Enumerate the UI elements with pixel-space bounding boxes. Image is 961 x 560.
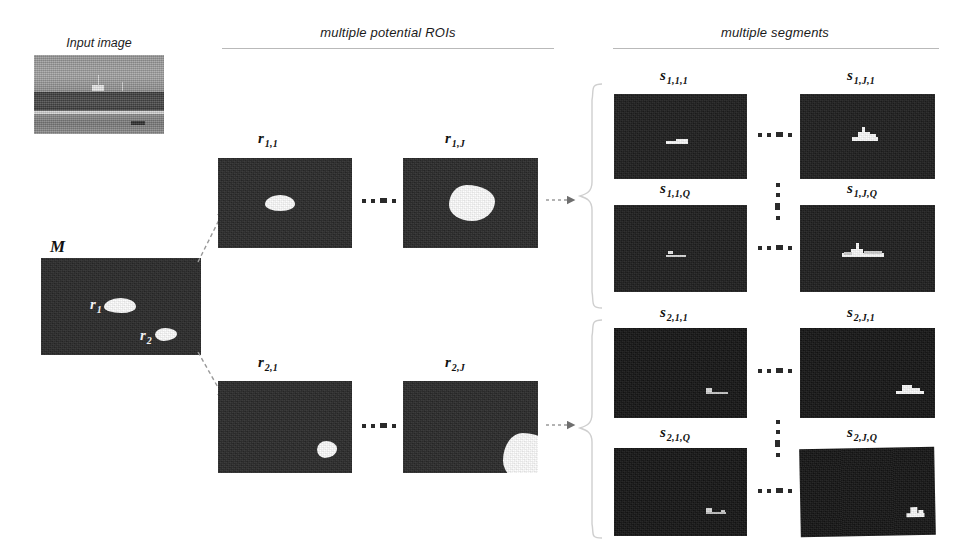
roi-label-r-2-J: r2,J xyxy=(445,355,464,370)
segment-label-s-1-J-1: s1,J,1 xyxy=(847,68,874,83)
segment-group-2-row-1-ellipsis xyxy=(758,368,792,373)
segment-panel-s-2-J-1 xyxy=(800,328,935,418)
roi-panel-r-1-J xyxy=(403,158,538,248)
segment-panel-s-2-1-Q xyxy=(614,448,747,536)
segment-group-2-vertical-ellipsis xyxy=(775,420,780,457)
segment-group-1-row-2-ellipsis xyxy=(758,245,792,250)
segment-object-streak xyxy=(666,139,688,144)
segment-object-corner-vessel xyxy=(896,385,924,394)
roi-panel-r-2-J xyxy=(403,381,538,473)
roi-panel-r-2-1 xyxy=(218,381,352,473)
input-image-caption: Input image xyxy=(34,36,164,50)
segment-group-1-row-1-ellipsis xyxy=(758,132,792,137)
segment-label-s-2-1-Q: s2,1,Q xyxy=(660,425,689,440)
segment-panel-s-1-J-Q xyxy=(800,205,935,292)
roi-blob-small xyxy=(265,195,295,211)
segment-object-faint-streak xyxy=(666,251,686,257)
roi-label-r-1-1: r1,1 xyxy=(258,131,277,146)
segment-group-1-vertical-ellipsis xyxy=(775,183,780,220)
mask-region-label-r1: r1 xyxy=(90,297,101,312)
section-rule-segments xyxy=(613,48,939,49)
brace-segment-group-1 xyxy=(578,82,604,310)
segment-label-s-1-J-Q: s1,J,Q xyxy=(847,181,876,196)
mask-label-M: M xyxy=(50,238,65,255)
roi-label-r-2-1: r2,1 xyxy=(258,355,277,370)
section-header-segments: multiple segments xyxy=(610,25,940,40)
roi-panel-r-1-1 xyxy=(218,158,352,248)
roi-blob-large xyxy=(449,185,495,221)
roi-label-r-1-J: r1,J xyxy=(445,131,464,146)
segment-object-vessel xyxy=(852,127,878,141)
section-header-rois: multiple potential ROIs xyxy=(218,25,558,40)
segment-panel-s-2-1-1 xyxy=(614,328,747,418)
mask-region-r1-blob xyxy=(104,298,136,313)
brace-segment-group-2 xyxy=(578,318,604,540)
input-image-thumbnail xyxy=(34,55,164,134)
segment-panel-s-1-1-Q xyxy=(614,205,747,292)
segment-group-2-row-2-ellipsis xyxy=(758,488,792,493)
segment-object-corner-bright xyxy=(906,507,924,517)
roi-blob-corner-large xyxy=(503,433,538,473)
segment-label-s-1-1-1: s1,1,1 xyxy=(660,68,687,83)
roi-row-2-ellipsis xyxy=(362,423,396,428)
mask-panel-M xyxy=(41,258,201,355)
mask-region-r2-blob xyxy=(155,328,177,341)
section-rule-rois xyxy=(222,48,554,49)
roi-blob-corner-small xyxy=(317,441,337,458)
segment-panel-s-1-1-1 xyxy=(614,94,747,179)
photo-shore-strip xyxy=(34,111,164,114)
segment-object-corner-faint xyxy=(706,388,728,394)
segment-label-s-2-J-Q: s2,J,Q xyxy=(847,425,876,440)
photo-horizon-band xyxy=(34,92,164,110)
photo-foreground-object xyxy=(131,121,145,125)
segment-object-vessel-wide xyxy=(842,243,884,257)
segment-panel-s-1-J-1 xyxy=(800,94,935,179)
segment-object-corner-faint-2 xyxy=(706,508,726,514)
segment-label-s-2-J-1: s2,J,1 xyxy=(847,305,874,320)
segment-label-s-1-1-Q: s1,1,Q xyxy=(660,181,689,196)
segment-panel-s-2-J-Q xyxy=(799,447,936,538)
segment-label-s-2-1-1: s2,1,1 xyxy=(660,305,687,320)
figure-canvas: Input image multiple potential ROIs mult… xyxy=(0,0,961,560)
roi-row-1-ellipsis xyxy=(362,198,396,203)
photo-secondary-mast xyxy=(122,82,123,91)
mask-region-label-r2: r2 xyxy=(140,328,151,343)
photo-vessel-mast xyxy=(98,75,99,86)
